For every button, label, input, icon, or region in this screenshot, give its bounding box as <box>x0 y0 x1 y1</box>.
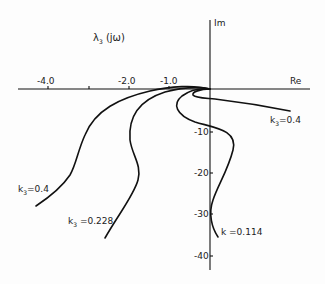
plot-canvas: λ3 (jω) Re Im -4.0 -2.0 -1.0 -10 -20 -30… <box>0 0 325 284</box>
x-tick-label-m4: -4.0 <box>37 76 55 86</box>
y-tick-label-m40: -40 <box>194 251 209 261</box>
plot-title: λ3 (jω) <box>93 32 125 45</box>
y-tick-label-m10: -10 <box>194 127 209 137</box>
label-k3-0.228: k3 =0.228 <box>68 216 113 228</box>
curve-k3-0.4-short <box>193 89 290 111</box>
nyquist-figure: λ3 (jω) Re Im -4.0 -2.0 -1.0 -10 -20 -30… <box>0 0 325 284</box>
x-tick-label-m2: -2.0 <box>118 76 136 86</box>
label-k3-0.4-left: k3=0.4 <box>18 184 49 196</box>
label-k-0.114: k =0.114 <box>221 227 263 237</box>
y-tick-label-m20: -20 <box>194 168 209 178</box>
real-axis-label: Re <box>290 76 302 86</box>
label-k3-0.4-right: k3=0.4 <box>270 115 301 127</box>
curve-k3-0.4-long <box>36 87 210 206</box>
y-tick-label-m30: -30 <box>194 209 209 219</box>
x-tick-label-m1: -1.0 <box>160 76 178 86</box>
imaginary-axis-label: Im <box>214 18 225 28</box>
